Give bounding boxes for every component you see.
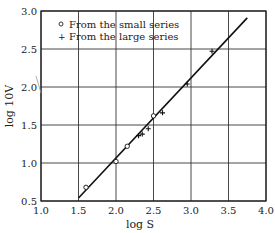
- x-tick-label: 3.0: [183, 205, 199, 216]
- y-tick-label: 2.5: [21, 44, 37, 55]
- plus-point: [185, 81, 190, 86]
- x-tick-label: 1.0: [33, 205, 49, 216]
- circle-point: [114, 159, 118, 163]
- y-tick-label: 0.5: [21, 196, 37, 207]
- plus-point: [146, 126, 151, 131]
- y-axis-label: log 10V: [3, 84, 16, 128]
- plus-marker-icon: +: [58, 32, 66, 42]
- y-tick-label: 2.0: [21, 82, 37, 93]
- legend-large: From the large series: [69, 31, 178, 42]
- x-tick-label: 2.0: [108, 205, 124, 216]
- data-points: [84, 49, 215, 190]
- y-tick-label: 1.5: [21, 120, 37, 131]
- x-tick-label: 2.5: [146, 205, 162, 216]
- scatter-chart: 1.01.52.02.53.03.54.00.51.01.52.02.53.0 …: [0, 0, 275, 233]
- y-tick-label: 3.0: [21, 6, 37, 17]
- x-tick-label: 1.5: [71, 205, 87, 216]
- legend-small: From the small series: [69, 19, 179, 30]
- x-axis-label: log S: [126, 218, 154, 231]
- circle-point: [151, 114, 155, 118]
- x-tick-label: 3.5: [221, 205, 237, 216]
- legend: From the small series + From the large s…: [58, 19, 179, 42]
- fit-line: [79, 18, 248, 198]
- circle-point: [84, 185, 88, 189]
- x-tick-label: 4.0: [258, 205, 274, 216]
- y-tick-label: 1.0: [21, 158, 37, 169]
- circle-point: [125, 144, 129, 148]
- circle-marker-icon: [59, 22, 63, 26]
